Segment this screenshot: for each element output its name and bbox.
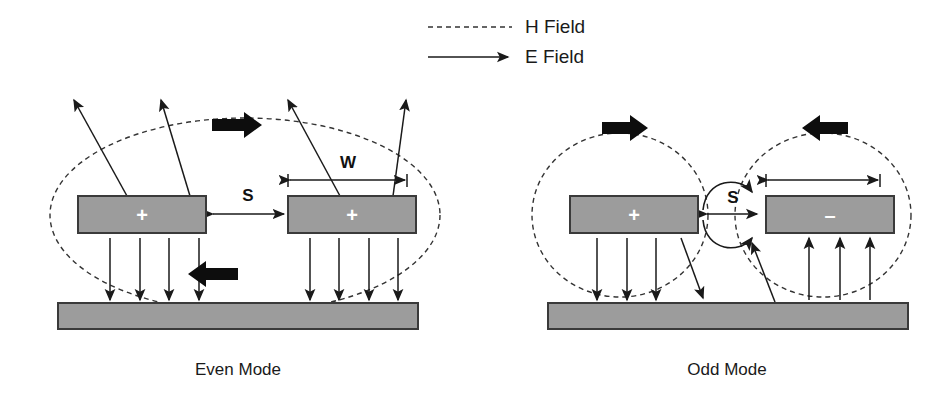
even-ground-plane — [58, 303, 418, 329]
legend-label-h-field: H Field — [525, 16, 585, 37]
even-right-strip: + — [288, 196, 416, 233]
even-left-strip: + — [78, 196, 206, 233]
even-right-strip-sign: + — [346, 204, 358, 226]
even-left-strip-sign: + — [136, 204, 148, 226]
odd-left-strip-sign: + — [628, 204, 640, 226]
coupled-microstrip-figure: H Field E Field W S — [0, 0, 950, 403]
even-s-label: S — [242, 186, 253, 205]
odd-mode-label: Odd Mode — [687, 360, 766, 379]
even-mode-label: Even Mode — [195, 360, 281, 379]
odd-ground-plane — [548, 303, 908, 329]
legend-label-e-field: E Field — [525, 46, 584, 67]
odd-right-strip-sign: – — [824, 204, 835, 226]
odd-s-label: S — [727, 188, 738, 207]
even-w-label: W — [340, 153, 357, 172]
odd-left-strip: + — [570, 196, 698, 233]
odd-right-strip: – — [766, 196, 894, 233]
figure-root: H Field E Field W S — [0, 0, 950, 403]
